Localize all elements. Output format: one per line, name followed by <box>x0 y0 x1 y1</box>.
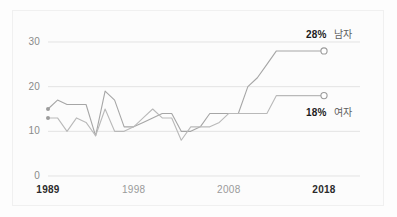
series-end-label-female: 18%여자 <box>306 104 352 119</box>
y-tick-label: 20 <box>18 81 40 92</box>
series-name-male: 남자 <box>334 29 352 40</box>
series-end-percent-male: 28% <box>306 29 327 40</box>
start-marker-male <box>46 107 50 111</box>
x-tick-label-1989: 1989 <box>20 184 76 195</box>
series-end-percent-female: 18% <box>306 107 327 118</box>
start-marker-female <box>46 116 50 120</box>
x-tick-label-1998: 1998 <box>106 184 162 195</box>
end-marker-female <box>321 93 327 99</box>
series-name-female: 여자 <box>334 107 352 118</box>
series-line-female <box>48 96 324 141</box>
y-tick-label: 0 <box>18 170 40 181</box>
series-end-label-male: 28%남자 <box>306 26 352 41</box>
chart-figure: 0102030 1989199820082018 28%남자 18%여자 <box>0 0 397 217</box>
y-tick-label: 10 <box>18 125 40 136</box>
series-lines <box>48 51 324 140</box>
series-line-male <box>48 51 324 136</box>
series-markers <box>46 48 327 120</box>
x-tick-label-2008: 2008 <box>201 184 257 195</box>
end-marker-male <box>321 48 327 54</box>
y-tick-label: 30 <box>18 36 40 47</box>
x-tick-label-2018: 2018 <box>296 184 352 195</box>
